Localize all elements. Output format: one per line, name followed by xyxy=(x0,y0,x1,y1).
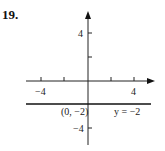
equation-label: y = −2 xyxy=(114,106,140,117)
x-label-neg4: −4 xyxy=(35,86,46,97)
coordinate-plot: −4 4 4 −4 (0, −2) y = −2 xyxy=(0,0,165,151)
y-label-neg4: −4 xyxy=(73,123,84,134)
x-label-4: 4 xyxy=(131,86,136,97)
y-label-4: 4 xyxy=(78,28,83,39)
point-label: (0, −2) xyxy=(61,106,88,118)
x-axis-arrow-icon xyxy=(147,78,155,84)
y-axis-arrow-icon xyxy=(85,11,91,19)
